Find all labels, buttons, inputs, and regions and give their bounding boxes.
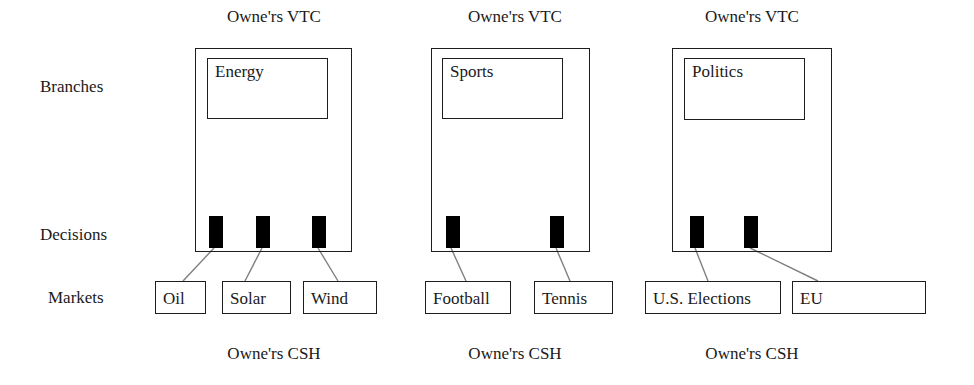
- vtc-caption-politics: Owne'rs VTC: [705, 8, 799, 25]
- market-box-solar[interactable]: Solar: [222, 281, 291, 314]
- decision-block-energy-d1[interactable]: [209, 216, 223, 248]
- market-box-wind[interactable]: Wind: [303, 281, 377, 314]
- connector-energy-1: [245, 248, 262, 281]
- market-label-football: Football: [433, 289, 490, 306]
- decision-block-sports-d2[interactable]: [550, 216, 564, 248]
- market-label-eu: EU: [800, 289, 823, 306]
- branch-box-sports[interactable]: Sports: [442, 58, 563, 119]
- market-box-football[interactable]: Football: [425, 281, 511, 314]
- market-box-us-elections[interactable]: U.S. Elections: [645, 281, 781, 314]
- decision-block-sports-d1[interactable]: [446, 216, 460, 248]
- connector-politics-1: [750, 248, 818, 281]
- market-label-solar: Solar: [230, 289, 266, 306]
- connector-sports-1: [556, 248, 570, 281]
- decision-block-politics-d1[interactable]: [690, 216, 704, 248]
- market-box-oil[interactable]: Oil: [155, 281, 206, 314]
- connector-energy-2: [318, 248, 338, 281]
- decision-block-energy-d3[interactable]: [312, 216, 326, 248]
- csh-caption-sports: Owne'rs CSH: [468, 345, 561, 362]
- decision-block-politics-d2[interactable]: [744, 216, 758, 248]
- csh-caption-energy: Owne'rs CSH: [227, 345, 320, 362]
- connector-sports-0: [451, 248, 466, 281]
- market-label-oil: Oil: [163, 289, 185, 306]
- row-label-decisions: Decisions: [40, 226, 107, 243]
- connector-energy-0: [183, 248, 214, 281]
- market-box-eu[interactable]: EU: [792, 281, 926, 314]
- market-label-tennis: Tennis: [542, 289, 587, 306]
- csh-caption-politics: Owne'rs CSH: [705, 345, 798, 362]
- branch-label-sports: Sports: [450, 62, 493, 82]
- diagram-canvas: BranchesDecisionsMarkets Owne'rs VTCOwne…: [0, 0, 974, 385]
- market-label-us-elections: U.S. Elections: [653, 289, 751, 306]
- connector-politics-0: [695, 248, 708, 281]
- row-label-markets: Markets: [48, 289, 104, 306]
- branch-label-energy: Energy: [215, 62, 264, 82]
- branch-box-politics[interactable]: Politics: [684, 58, 805, 120]
- branch-label-politics: Politics: [692, 62, 743, 82]
- row-label-branches: Branches: [40, 78, 103, 95]
- branch-box-energy[interactable]: Energy: [207, 58, 328, 119]
- market-box-tennis[interactable]: Tennis: [534, 281, 613, 314]
- decision-block-energy-d2[interactable]: [256, 216, 270, 248]
- market-label-wind: Wind: [311, 289, 348, 306]
- vtc-caption-sports: Owne'rs VTC: [468, 8, 562, 25]
- vtc-caption-energy: Owne'rs VTC: [227, 8, 321, 25]
